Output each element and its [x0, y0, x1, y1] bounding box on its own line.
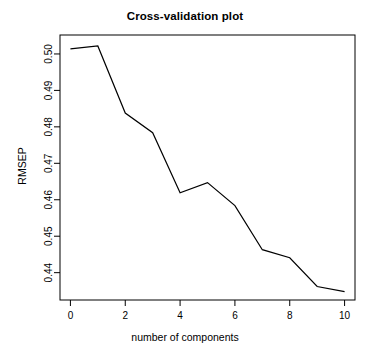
y-tick-label: 0.48: [44, 117, 55, 137]
plot-box: [60, 35, 355, 300]
y-axis-label: RMSEP: [16, 126, 28, 206]
x-tick-label: 4: [177, 310, 183, 321]
y-tick-label: 0.47: [44, 153, 55, 173]
x-tick-label: 0: [68, 310, 74, 321]
x-tick-label: 2: [122, 310, 128, 321]
rmsep-series-line: [70, 46, 344, 292]
y-tick-label: 0.44: [44, 262, 55, 282]
cross-validation-chart: Cross-validation plot 02468100.440.450.4…: [0, 0, 370, 355]
y-tick-label: 0.49: [44, 80, 55, 100]
y-tick-label: 0.46: [44, 190, 55, 210]
y-tick-label: 0.45: [44, 226, 55, 246]
y-tick-label: 0.50: [44, 44, 55, 64]
x-axis-label: number of components: [0, 331, 370, 343]
x-tick-label: 6: [232, 310, 238, 321]
plot-area: 02468100.440.450.460.470.480.490.50: [0, 0, 370, 355]
x-tick-label: 10: [339, 310, 351, 321]
x-tick-label: 8: [287, 310, 293, 321]
